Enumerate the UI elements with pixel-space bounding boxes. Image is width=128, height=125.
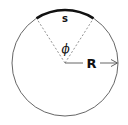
dashed-radius-left: [37, 18, 66, 63]
radius-label-r: R: [86, 56, 96, 71]
angle-label-phi: ϕ: [61, 42, 69, 56]
arc-label-s: s: [62, 13, 68, 24]
circle-arc-diagram: s ϕ R: [0, 0, 128, 125]
